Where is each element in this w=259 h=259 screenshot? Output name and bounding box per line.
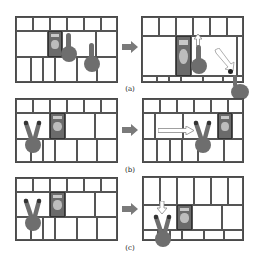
poster-item[interactable] (177, 205, 192, 230)
grid-cell (95, 113, 117, 139)
grid-cell (157, 76, 169, 82)
grid-cell (177, 99, 194, 113)
grid-cell (237, 36, 243, 76)
grid-cell (84, 17, 101, 31)
grid-cell (67, 178, 84, 192)
two-finger-hand-icon (22, 120, 44, 154)
grid-cell (67, 99, 84, 113)
grid-cell (16, 178, 33, 192)
grid-cell (77, 139, 97, 162)
grid-cell (159, 17, 176, 36)
grid-cell (55, 139, 77, 162)
two-finger-hand-icon (152, 214, 174, 248)
grid-cell (101, 99, 117, 113)
grid-cell (204, 230, 224, 240)
grid-cell (84, 99, 101, 113)
grid-cell (228, 99, 243, 113)
grid-cell (65, 113, 95, 139)
grid-cell (160, 99, 177, 113)
grid-cell (203, 76, 223, 82)
grid-cell (192, 205, 222, 230)
grid-cell (210, 17, 227, 36)
grid-cell (228, 177, 243, 205)
grid-cell (211, 177, 228, 205)
grid-cell (84, 178, 101, 192)
grid-cell (101, 178, 117, 192)
down-arrow-icon (157, 201, 167, 214)
poster-item[interactable] (218, 113, 232, 139)
caption-a: (a) (115, 85, 145, 93)
poster-item[interactable] (176, 36, 191, 76)
grid-cell (67, 17, 84, 31)
grid-cell (16, 17, 33, 31)
grid-cell (95, 192, 117, 217)
two-finger-hand-icon (22, 198, 44, 232)
grid-cell (142, 36, 176, 76)
grid-cell (182, 230, 204, 240)
grid-cell (31, 57, 43, 82)
grid-cell (157, 139, 170, 162)
grid-cell (33, 99, 50, 113)
grid-cell (169, 76, 181, 82)
grid-cell (227, 17, 243, 36)
grid-cell (33, 17, 50, 31)
poster-item[interactable] (50, 192, 65, 217)
poster-item[interactable] (50, 113, 65, 139)
grid-cell (43, 57, 55, 82)
grid-cell (143, 99, 160, 113)
grid-cell (143, 139, 157, 162)
grid-cell (43, 217, 55, 240)
grid-cell (224, 230, 243, 240)
transition-arrow-icon (122, 203, 138, 215)
transition-arrow-icon (122, 124, 138, 136)
grid-cell (16, 31, 48, 57)
grid-cell (55, 217, 77, 240)
pointing-hand-icon (190, 45, 208, 75)
grid-cell (222, 205, 243, 230)
grid-cell (50, 178, 67, 192)
pointing-hand-icon (83, 43, 101, 73)
caption-b: (b) (115, 166, 145, 174)
grid-cell (77, 217, 97, 240)
grid-cell (97, 139, 117, 162)
grid-cell (65, 192, 95, 217)
grid-cell (43, 139, 55, 162)
grid-cell (170, 139, 182, 162)
grid-cell (194, 177, 211, 205)
grid-cell (142, 17, 159, 36)
grid-cell (181, 76, 203, 82)
grid-cell (50, 99, 67, 113)
grid-cell (50, 17, 67, 31)
grid-cell (142, 76, 157, 82)
grid-cell (101, 17, 117, 31)
corner-touch-dot (228, 69, 233, 74)
grid-cell (16, 57, 31, 82)
right-arrow-icon (158, 126, 194, 135)
grid-cell (143, 113, 155, 139)
pointing-hand-icon (60, 33, 78, 63)
grid-cell (176, 17, 193, 36)
grid-cell (33, 178, 50, 192)
grid-cell (97, 217, 117, 240)
grid-cell (211, 99, 228, 113)
transition-arrow-icon (122, 41, 138, 53)
grid-cell (16, 99, 33, 113)
grid-cell (224, 139, 243, 162)
two-finger-hand-icon (192, 120, 214, 154)
grid-cell (194, 99, 211, 113)
caption-c: (c) (115, 244, 145, 252)
grid-cell (232, 113, 243, 139)
grid-cell (177, 177, 194, 205)
